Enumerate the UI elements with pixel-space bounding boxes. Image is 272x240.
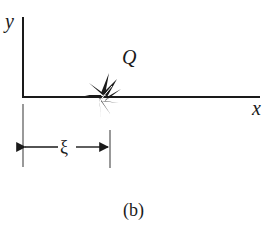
y-axis-label: y bbox=[3, 10, 14, 33]
source-label: Q bbox=[122, 46, 137, 68]
x-axis-label: x bbox=[251, 97, 261, 119]
source-star-icon bbox=[85, 73, 121, 117]
diagram-canvas: y x Q ξ (b) bbox=[0, 0, 272, 240]
dimension-label: ξ bbox=[60, 137, 68, 157]
figure-caption: (b) bbox=[123, 200, 144, 221]
